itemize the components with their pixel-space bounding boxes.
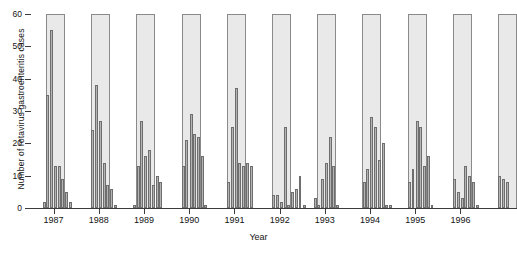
bar	[238, 163, 241, 208]
x-axis-title: Year	[0, 232, 517, 242]
x-axis-tick-label: 1992	[260, 215, 300, 225]
bar	[498, 176, 501, 208]
bar	[61, 179, 64, 208]
bar	[453, 179, 456, 208]
bar	[152, 185, 155, 208]
bar	[246, 163, 249, 208]
bar	[506, 182, 509, 208]
x-axis-tick-label: 1996	[440, 215, 480, 225]
bar	[366, 169, 369, 208]
x-axis-tick-label: 1990	[169, 215, 209, 225]
bar	[272, 195, 275, 208]
y-axis-tick-label: 0	[0, 203, 22, 213]
y-axis-tick-label: 50	[0, 41, 22, 51]
x-axis-tick	[144, 208, 145, 214]
bar	[159, 182, 162, 208]
bar	[54, 166, 57, 208]
bar	[190, 114, 193, 208]
x-axis-tick	[189, 208, 190, 214]
bar	[457, 192, 460, 208]
bar	[299, 176, 302, 208]
bar	[250, 166, 253, 208]
winter-season-band	[272, 14, 291, 208]
bar	[468, 176, 471, 208]
bar	[197, 137, 200, 208]
bar	[227, 182, 230, 208]
x-axis-tick	[99, 208, 100, 214]
bar	[332, 166, 335, 208]
bar	[46, 95, 49, 208]
bar	[363, 182, 366, 208]
bar	[137, 166, 140, 208]
bar	[416, 121, 419, 208]
bar	[295, 189, 298, 208]
bar	[370, 117, 373, 208]
bar	[193, 134, 196, 208]
x-axis-tick	[234, 208, 235, 214]
bar	[382, 143, 385, 208]
bar	[106, 185, 109, 208]
bar	[321, 179, 324, 208]
bar	[276, 195, 279, 208]
bar	[231, 127, 234, 208]
x-axis-tick-label: 1994	[350, 215, 390, 225]
x-axis-tick	[460, 208, 461, 214]
y-axis-tick-label: 10	[0, 171, 22, 181]
plot-inner	[31, 14, 517, 208]
x-axis-line	[31, 208, 517, 209]
bar	[148, 150, 151, 208]
x-axis-tick	[280, 208, 281, 214]
bar	[65, 192, 68, 208]
bar	[95, 85, 98, 208]
bar	[58, 166, 61, 208]
x-axis-tick-label: 1988	[79, 215, 119, 225]
bar	[185, 140, 188, 208]
plot-area	[31, 14, 517, 208]
bar	[374, 127, 377, 208]
bar	[378, 160, 381, 209]
bar	[242, 166, 245, 208]
bar	[461, 198, 464, 208]
bar	[235, 88, 238, 208]
y-axis-ticks: 0102030405060	[0, 0, 31, 254]
bar	[502, 179, 505, 208]
bar	[464, 166, 467, 208]
bar	[99, 121, 102, 208]
bar	[201, 156, 204, 208]
x-axis-tick	[54, 208, 55, 214]
rotavirus-bar-chart: Number of rotavirus gastroenteritis case…	[0, 0, 517, 254]
x-axis-tick-label: 1987	[34, 215, 74, 225]
y-axis-tick-label: 20	[0, 138, 22, 148]
bar	[144, 156, 147, 208]
bar	[284, 127, 287, 208]
bar	[110, 189, 113, 208]
x-axis-tick	[415, 208, 416, 214]
bar	[140, 121, 143, 208]
bar	[325, 163, 328, 208]
bar	[91, 130, 94, 208]
x-axis-tick	[325, 208, 326, 214]
bar	[291, 192, 294, 208]
x-axis-tick-label: 1991	[214, 215, 254, 225]
bar	[412, 169, 415, 208]
bar	[419, 127, 422, 208]
x-axis-tick	[370, 208, 371, 214]
bar	[182, 166, 185, 208]
y-axis-tick-label: 60	[0, 9, 22, 19]
bar	[50, 30, 53, 208]
bar	[408, 182, 411, 208]
y-axis-tick-label: 40	[0, 74, 22, 84]
x-axis-tick-label: 1993	[305, 215, 345, 225]
bar	[472, 182, 475, 208]
bar	[156, 176, 159, 208]
y-axis-tick-label: 30	[0, 106, 22, 116]
bar	[103, 163, 106, 208]
bar	[329, 137, 332, 208]
bar	[427, 156, 430, 208]
x-axis-tick-label: 1989	[124, 215, 164, 225]
bar	[314, 198, 317, 208]
bar	[423, 166, 426, 208]
x-axis-tick-label: 1995	[395, 215, 435, 225]
